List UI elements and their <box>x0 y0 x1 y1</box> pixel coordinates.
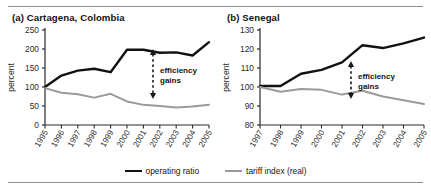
legend-swatch-operating-ratio <box>125 170 142 172</box>
x-axis-tick-label: 1996 <box>49 128 66 149</box>
legend-label-tariff-index: tariff index (real) <box>246 166 306 176</box>
y-axis-title: percent <box>6 63 16 92</box>
x-axis-tick-label: 1997 <box>248 128 265 149</box>
x-axis-tick-label: 2004 <box>181 128 198 149</box>
y-axis-tick-label: 0 <box>34 120 39 130</box>
panel-a-title: (a) Cartagena, Colombia <box>12 12 125 23</box>
x-axis-tick-label: 2002 <box>148 128 165 149</box>
x-axis-tick-label: 2001 <box>330 128 347 149</box>
legend-item-tariff-index: tariff index (real) <box>225 166 306 176</box>
y-axis-tick-label: 100 <box>25 82 39 92</box>
x-axis-tick-label: 2000 <box>115 128 132 149</box>
y-axis-tick-label: 130 <box>240 25 254 35</box>
x-axis-tick-label: 1998 <box>82 128 99 149</box>
x-axis-tick-label: 2000 <box>310 128 327 149</box>
figure-container: (a) Cartagena, Colombia 050100150200250p… <box>0 0 431 189</box>
y-axis-title: percent <box>221 63 231 92</box>
y-axis-tick-label: 250 <box>25 25 39 35</box>
y-axis-tick-label: 50 <box>30 101 40 111</box>
panel-b-title: (b) Senegal <box>227 12 280 23</box>
x-axis-tick-label: 1997 <box>66 128 83 149</box>
y-axis-tick-label: 80 <box>245 120 255 130</box>
x-axis-tick-label: 1999 <box>289 128 306 149</box>
legend-swatch-tariff-index <box>225 170 242 172</box>
legend-label-operating-ratio: operating ratio <box>146 166 200 176</box>
y-axis-tick-label: 200 <box>25 44 39 54</box>
x-axis-tick-label: 2002 <box>351 128 368 149</box>
legend-item-operating-ratio: operating ratio <box>125 166 200 176</box>
x-axis-tick-label: 2004 <box>392 128 409 149</box>
y-axis-tick-label: 110 <box>241 63 255 73</box>
y-axis-tick-label: 100 <box>240 82 254 92</box>
efficiency-gains-annotation: efficiencygains <box>150 49 198 99</box>
y-axis-tick-label: 150 <box>25 63 39 73</box>
y-axis-tick-label: 120 <box>240 44 254 54</box>
x-axis-tick-label: 2003 <box>371 128 388 149</box>
chart-panel-a: (a) Cartagena, Colombia 050100150200250p… <box>2 12 217 157</box>
data-series-line <box>45 88 209 107</box>
x-axis-tick-label: 1998 <box>269 128 286 149</box>
chart-legend: operating ratio tariff index (real) <box>0 163 431 179</box>
annotation-label-line1: efficiency <box>358 72 395 81</box>
annotation-label-line2: gains <box>160 76 181 85</box>
annotation-label-line2: gains <box>358 82 379 91</box>
x-axis-tick-label: 2003 <box>164 128 181 149</box>
data-series-line <box>260 87 424 104</box>
chart-b-plot: 8090100110120130percent19971998199920002… <box>217 25 431 157</box>
chart-panel-b: (b) Senegal 8090100110120130percent19971… <box>217 12 431 157</box>
y-axis-tick-label: 90 <box>245 101 255 111</box>
x-axis-tick-label: 1999 <box>99 128 116 149</box>
data-series-line <box>260 38 424 86</box>
chart-a-plot: 050100150200250percent199519961997199819… <box>2 25 217 157</box>
x-axis-tick-label: 1995 <box>33 128 50 149</box>
x-axis-tick-label: 2005 <box>197 128 214 149</box>
top-divider <box>8 6 423 7</box>
bottom-divider <box>8 182 423 183</box>
x-axis-tick-label: 2001 <box>131 128 148 149</box>
annotation-label-line1: efficiency <box>160 66 197 75</box>
x-axis-tick-label: 2005 <box>412 128 429 149</box>
